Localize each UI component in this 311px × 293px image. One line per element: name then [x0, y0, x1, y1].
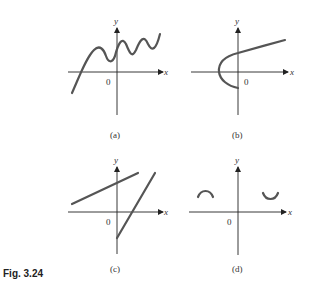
figure-canvas: x y 0 (a) x y 0 (b) x y 0 (c) x y 0 (d) — [0, 0, 311, 293]
panel-caption: (a) — [110, 130, 120, 140]
x-axis-label: x — [163, 207, 168, 217]
figure-number: Fig. 3.24 — [3, 268, 43, 279]
origin-label: 0 — [106, 77, 111, 87]
y-axis-label: y — [234, 16, 239, 26]
panel-a: x y 0 (a) — [68, 16, 168, 140]
curve-a — [72, 34, 160, 93]
origin-label: 0 — [244, 77, 249, 87]
panel-caption: (d) — [232, 264, 243, 274]
line-segment-left — [72, 173, 138, 204]
y-axis-label: y — [113, 16, 118, 26]
x-axis-label: x — [287, 207, 292, 217]
panel-d: x y 0 (d) — [189, 155, 292, 274]
y-axis-label: y — [234, 155, 239, 165]
panel-c: x y 0 (c) — [68, 155, 168, 274]
line-segment-right — [117, 173, 155, 238]
panel-caption: (b) — [232, 130, 243, 140]
y-axis-label: y — [113, 155, 118, 165]
origin-label: 0 — [106, 217, 111, 227]
panel-caption: (c) — [110, 264, 120, 274]
arc-concave-up — [263, 193, 278, 199]
origin-label: 0 — [227, 217, 232, 227]
x-axis-label: x — [163, 67, 168, 77]
curve-b — [219, 40, 285, 88]
arc-concave-down — [198, 191, 213, 197]
x-axis-label: x — [289, 67, 294, 77]
panel-b: x y 0 (b) — [191, 16, 294, 140]
